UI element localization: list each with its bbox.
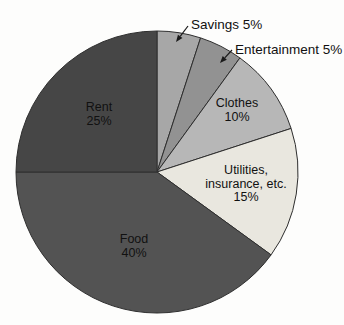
- slice-label-line: Utilities,: [224, 163, 268, 177]
- slice-label-line: 15%: [233, 190, 258, 204]
- slice-label-line: insurance, etc.: [205, 177, 286, 191]
- slice-label-line: 25%: [86, 114, 111, 128]
- slice-label-food: Food40%: [120, 232, 149, 260]
- slice-label-line: 10%: [224, 110, 249, 124]
- pie-chart-svg: Clothes10%Utilities,insurance, etc.15%Fo…: [0, 0, 344, 325]
- slice-label-line: Clothes: [216, 96, 258, 110]
- external-label-savings: Savings 5%: [191, 17, 262, 32]
- slice-label-rent: Rent25%: [86, 100, 113, 128]
- external-label-entertainment: Entertainment 5%: [235, 42, 342, 57]
- pie-chart-figure: Clothes10%Utilities,insurance, etc.15%Fo…: [0, 0, 344, 325]
- slice-label-line: Rent: [86, 100, 113, 114]
- slice-label-line: Food: [120, 232, 149, 246]
- slice-label-line: 40%: [121, 246, 146, 260]
